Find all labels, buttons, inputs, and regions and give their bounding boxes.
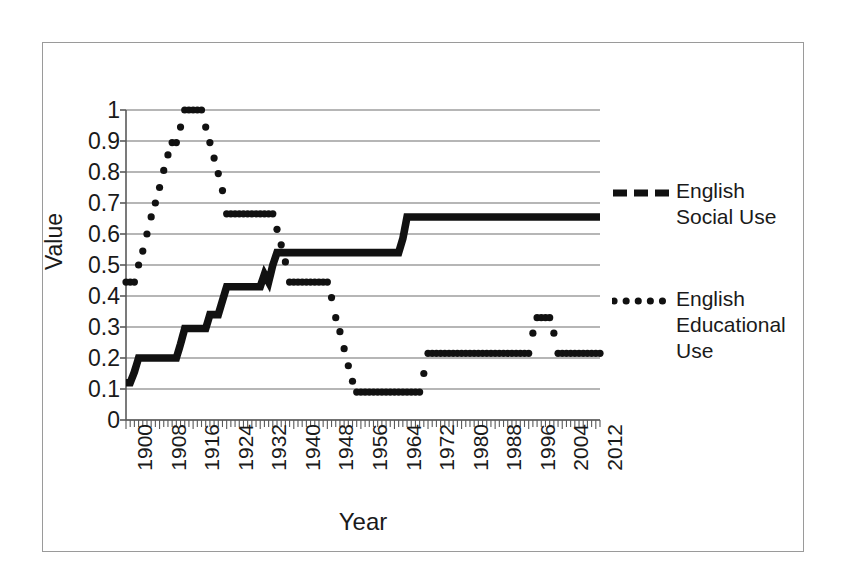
legend-swatch-dotted-line bbox=[612, 288, 674, 314]
x-axis-tick-label: 1972 bbox=[436, 424, 457, 471]
plot-area bbox=[126, 110, 600, 420]
x-axis-tick-label: 1964 bbox=[403, 424, 424, 471]
x-axis-tick-label: 2012 bbox=[604, 424, 625, 471]
y-axis-tick-label: 0.2 bbox=[88, 347, 120, 370]
y-axis-tick-label: 0 bbox=[107, 409, 120, 432]
y-axis-tick-label: 0.5 bbox=[88, 254, 120, 277]
legend-label-english-educational-use: English Educational Use bbox=[676, 286, 786, 364]
x-axis-tick-label: 1996 bbox=[537, 424, 558, 471]
y-axis-tick-label: 0.1 bbox=[88, 378, 120, 401]
x-axis-tick-label: 1908 bbox=[168, 424, 189, 471]
legend-item-english-social-use: English Social Use bbox=[612, 178, 776, 230]
x-axis-title: Year bbox=[126, 508, 600, 536]
x-axis-tick-label: 1916 bbox=[201, 424, 222, 471]
y-axis-tick-label: 1 bbox=[107, 99, 120, 122]
x-axis-tick-label: 1988 bbox=[503, 424, 524, 471]
x-axis-tick-label: 1900 bbox=[134, 424, 155, 471]
legend-item-english-educational-use: English Educational Use bbox=[612, 286, 786, 364]
chart-figure: 00.10.20.30.40.50.60.70.80.91 Value 1900… bbox=[0, 0, 846, 586]
x-axis-tick-label: 1956 bbox=[369, 424, 390, 471]
y-axis-tick-label: 0.3 bbox=[88, 316, 120, 339]
x-axis-tick-label: 1948 bbox=[335, 424, 356, 471]
y-axis-tick-label: 0.4 bbox=[88, 285, 120, 308]
legend-label-english-social-use: English Social Use bbox=[676, 178, 776, 230]
y-axis-tick-label: 0.7 bbox=[88, 192, 120, 215]
x-axis-tick-label: 1932 bbox=[268, 424, 289, 471]
gridlines bbox=[126, 110, 600, 420]
y-axis-tick-label: 0.9 bbox=[88, 130, 120, 153]
x-axis-tick-label: 2004 bbox=[570, 424, 591, 471]
y-axis-tick-label: 0.8 bbox=[88, 161, 120, 184]
y-axis-tick-label: 0.6 bbox=[88, 223, 120, 246]
x-axis-tick-label: 1980 bbox=[470, 424, 491, 471]
x-axis-tick-label: 1940 bbox=[302, 424, 323, 471]
plot-canvas bbox=[126, 110, 600, 420]
x-axis-tick-labels: 1900190819161924193219401948195619641972… bbox=[126, 424, 600, 504]
legend-swatch-dashed-line bbox=[612, 180, 674, 206]
y-axis-title: Value bbox=[41, 182, 68, 302]
x-axis-tick-label: 1924 bbox=[235, 424, 256, 471]
